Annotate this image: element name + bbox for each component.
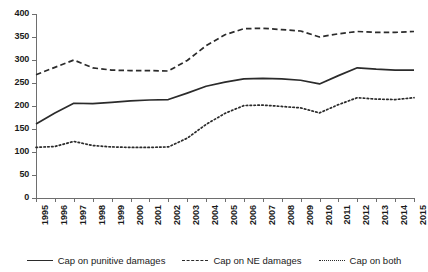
x-tick-mark — [282, 198, 283, 202]
y-tick-label: 0 — [24, 192, 29, 203]
x-tick-label: 2011 — [342, 205, 352, 225]
line-chart: 400350300250200150100500 199519961997199… — [0, 0, 428, 272]
x-tick-label: 1995 — [40, 205, 50, 225]
x-tick-mark — [225, 198, 226, 202]
x-tick-label: 1998 — [97, 205, 107, 225]
x-tick-mark — [301, 198, 302, 202]
x-tick-label: 2006 — [248, 205, 258, 225]
x-tick-mark — [357, 198, 358, 202]
x-tick-mark — [263, 198, 264, 202]
x-tick-mark — [395, 198, 396, 202]
series-layer — [0, 0, 428, 272]
x-tick-label: 2010 — [324, 205, 334, 225]
y-tick-label: 250 — [15, 77, 29, 88]
x-tick-label: 2002 — [172, 205, 182, 225]
x-tick-label: 2014 — [399, 205, 409, 225]
series-line-1 — [36, 28, 414, 74]
x-tick-mark — [74, 198, 75, 202]
x-tick-mark — [168, 198, 169, 202]
series-line-0 — [36, 68, 414, 124]
x-tick-mark — [244, 198, 245, 202]
x-tick-mark — [149, 198, 150, 202]
y-tick-label: 400 — [15, 8, 29, 19]
x-tick-label: 2000 — [135, 205, 145, 225]
x-tick-label: 2012 — [361, 205, 371, 225]
x-tick-mark — [338, 198, 339, 202]
legend-line-icon — [319, 256, 345, 265]
legend-line-icon — [27, 256, 53, 265]
y-tick-label: 300 — [15, 54, 29, 65]
x-tick-mark — [187, 198, 188, 202]
y-tick-mark — [32, 106, 36, 107]
y-tick-label: 350 — [15, 31, 29, 42]
y-tick-label: 100 — [15, 146, 29, 157]
x-tick-label: 2015 — [418, 205, 428, 225]
legend-item[interactable]: Cap on both — [319, 255, 402, 266]
chart-legend: Cap on punitive damagesCap on NE damages… — [0, 251, 428, 269]
x-tick-label: 1997 — [78, 205, 88, 225]
x-tick-label: 2001 — [153, 205, 163, 225]
x-tick-mark — [112, 198, 113, 202]
y-tick-label: 150 — [15, 123, 29, 134]
x-tick-label: 2005 — [229, 205, 239, 225]
legend-label: Cap on NE damages — [213, 255, 301, 266]
x-tick-mark — [414, 198, 415, 202]
legend-item[interactable]: Cap on punitive damages — [27, 255, 166, 266]
y-tick-mark — [32, 60, 36, 61]
y-tick-mark — [32, 152, 36, 153]
y-tick-mark — [32, 83, 36, 84]
legend-label: Cap on punitive damages — [58, 255, 166, 266]
x-tick-mark — [206, 198, 207, 202]
x-tick-mark — [320, 198, 321, 202]
x-tick-mark — [93, 198, 94, 202]
x-tick-label: 2009 — [305, 205, 315, 225]
x-tick-label: 2008 — [286, 205, 296, 225]
legend-line-icon — [182, 256, 208, 265]
y-tick-mark — [32, 14, 36, 15]
y-tick-label: 200 — [15, 100, 29, 111]
x-tick-mark — [36, 198, 37, 202]
x-tick-mark — [131, 198, 132, 202]
y-tick-mark — [32, 129, 36, 130]
x-tick-label: 1996 — [59, 205, 69, 225]
x-tick-label: 2013 — [380, 205, 390, 225]
x-tick-label: 2004 — [210, 205, 220, 225]
x-tick-label: 2007 — [267, 205, 277, 225]
y-axis-line — [36, 14, 37, 199]
x-tick-mark — [55, 198, 56, 202]
series-line-2 — [36, 98, 414, 148]
x-tick-label: 1999 — [116, 205, 126, 225]
y-tick-label: 50 — [19, 169, 29, 180]
y-tick-mark — [32, 37, 36, 38]
legend-label: Cap on both — [350, 255, 402, 266]
y-tick-mark — [32, 175, 36, 176]
x-tick-label: 2003 — [191, 205, 201, 225]
x-tick-mark — [376, 198, 377, 202]
legend-item[interactable]: Cap on NE damages — [182, 255, 301, 266]
